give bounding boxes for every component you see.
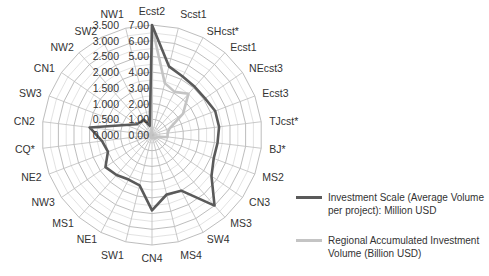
primary-tick-label: 7.00 xyxy=(129,19,150,31)
primary-tick-label: 4.00 xyxy=(129,66,150,78)
category-label: CN2 xyxy=(14,115,35,127)
primary-tick-label: 3.00 xyxy=(129,82,150,94)
category-label: MS3 xyxy=(230,217,252,229)
primary-tick-label: 6.00 xyxy=(129,35,150,47)
category-label: CN4 xyxy=(141,252,162,264)
secondary-tick-label: 2.000 xyxy=(93,66,119,78)
category-label: SW4 xyxy=(207,233,230,245)
legend-item-investment-scale: Investment Scale (Average Volume per pro… xyxy=(296,191,486,217)
category-label: Scst1 xyxy=(180,8,206,20)
primary-tick-label: 5.00 xyxy=(129,50,150,62)
category-label: BJ* xyxy=(269,143,285,155)
category-label: NEcst3 xyxy=(249,62,283,74)
secondary-tick-label: 1.500 xyxy=(93,82,119,94)
secondary-tick-label: 2.500 xyxy=(93,50,119,62)
category-label: NW3 xyxy=(32,196,55,208)
category-label: SW1 xyxy=(101,249,124,261)
legend-label: Investment Scale (Average Volume per pro… xyxy=(328,191,486,217)
legend-label: Regional Accumulated Investment Volume (… xyxy=(328,234,486,260)
category-label: CQ* xyxy=(15,143,35,155)
category-label: SHcst* xyxy=(207,25,239,37)
category-label: NE2 xyxy=(21,171,42,183)
primary-tick-label: 2.00 xyxy=(129,98,150,110)
category-label: NW1 xyxy=(100,8,123,20)
category-label: TJcst* xyxy=(269,115,298,127)
category-label: MS4 xyxy=(180,249,202,261)
legend-item-accumulated-volume: Regional Accumulated Investment Volume (… xyxy=(296,234,486,260)
category-label: CN1 xyxy=(34,62,55,74)
category-label: Ecst2 xyxy=(139,5,165,17)
primary-tick-label: 0.00 xyxy=(129,129,150,141)
category-label: Ecst1 xyxy=(230,41,256,53)
legend-swatch-light xyxy=(296,239,322,242)
category-label: Ecst3 xyxy=(262,87,288,99)
category-label: SW3 xyxy=(19,87,42,99)
category-label: MS2 xyxy=(262,171,284,183)
secondary-tick-label: 1.000 xyxy=(93,98,119,110)
secondary-tick-label: 0.000 xyxy=(93,129,119,141)
legend-swatch-dark xyxy=(296,196,322,199)
category-label: SW2 xyxy=(74,25,97,37)
secondary-tick-label: 0.500 xyxy=(93,113,119,125)
category-label: NW2 xyxy=(50,41,73,53)
category-label: NE1 xyxy=(77,233,98,245)
primary-tick-label: 1.00 xyxy=(129,113,150,125)
category-label: CN3 xyxy=(249,196,270,208)
radial-tick-labels: 0.000.0001.000.5002.001.0003.001.5004.00… xyxy=(93,19,149,141)
category-label: MS1 xyxy=(52,217,74,229)
